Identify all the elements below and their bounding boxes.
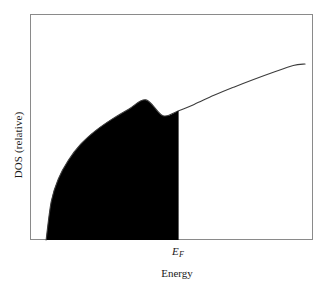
dos-energy-figure: DOS (relative) Energy EF: [0, 0, 331, 288]
x-axis-label: Energy: [161, 267, 193, 279]
fermi-energy-label: EF: [172, 245, 184, 259]
fermi-symbol: E: [172, 245, 179, 257]
y-axis-label: DOS (relative): [12, 112, 24, 178]
plot-frame: [30, 14, 313, 240]
fermi-subscript: F: [179, 250, 184, 259]
